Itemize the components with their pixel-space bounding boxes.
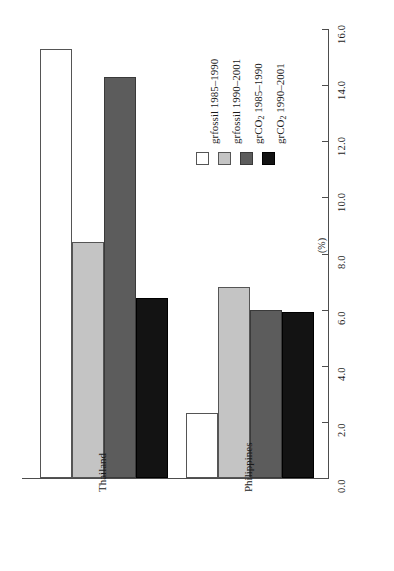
value-axis-tick (322, 29, 328, 30)
legend-label: grfossil 1990–2001 (230, 59, 242, 144)
value-axis-tick (322, 85, 328, 86)
value-axis-tick-label: 16.0 (336, 25, 347, 44)
value-axis-tick (322, 422, 328, 423)
value-axis-tick-label: 8.0 (336, 255, 347, 269)
value-axis-tick (322, 310, 328, 311)
value-axis-tick-label: 2.0 (336, 423, 347, 437)
bar (136, 298, 168, 478)
value-axis-tick-label: 12.0 (336, 137, 347, 156)
bar (104, 77, 136, 478)
value-axis-tick-label: 4.0 (336, 367, 347, 381)
axis-unit-label: (%) (316, 238, 327, 253)
bar (186, 413, 218, 478)
value-axis-tick (322, 478, 328, 479)
value-axis-tick (322, 197, 328, 198)
value-axis-tick-label: 0.0 (336, 479, 347, 493)
value-axis-tick-label: 6.0 (336, 311, 347, 325)
bar (40, 49, 72, 478)
legend-label: grCO2 1985–1990 (252, 63, 264, 144)
value-axis-line (328, 29, 329, 479)
chart-legend: grfossil 1985–1990grfossil 1990–2001grCO… (196, 18, 308, 168)
legend-label: grCO2 1990–2001 (274, 63, 286, 144)
bar (250, 310, 282, 478)
bar-chart-figure: ThailandPhilippines 0.02.04.06.08.010.01… (0, 0, 394, 571)
category-label: Thailand (96, 453, 108, 492)
legend-swatch (240, 152, 253, 165)
value-axis-tick (322, 366, 328, 367)
value-axis-tick (322, 141, 328, 142)
value-axis-tick-label: 10.0 (336, 193, 347, 212)
value-axis-tick (322, 254, 328, 255)
legend-swatch (262, 152, 275, 165)
bar (282, 312, 314, 478)
bar (72, 242, 104, 478)
legend-label: grfossil 1985–1990 (208, 59, 220, 144)
legend-swatch (196, 152, 209, 165)
value-axis-tick-label: 14.0 (336, 81, 347, 100)
legend-swatch (218, 152, 231, 165)
category-axis-line (22, 478, 328, 479)
category-label: Philippines (242, 442, 254, 492)
